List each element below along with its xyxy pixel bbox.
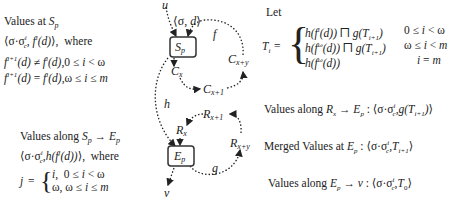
ti-label: Ti = xyxy=(262,40,281,58)
label-f: f xyxy=(213,27,218,41)
ti-case-2-cond: ω ≤ i < m xyxy=(404,39,447,52)
ti-case-1-cond: 0 ≤ i < ω xyxy=(404,24,445,37)
ti-definition: Ti = { h(fi(d)) ⨅ g(Ti+1) 0 ≤ i < ω h(fω… xyxy=(262,22,461,72)
label-cx: Cx xyxy=(171,64,183,79)
edge-rx1-rx xyxy=(187,114,203,125)
edge-cx1-cxy xyxy=(227,72,243,88)
label-cx1: Cx+1 xyxy=(203,82,224,97)
label-h: h xyxy=(164,97,170,111)
values-along-ep: Values along Ep → v : ⟨σ·σic,T0⟩ xyxy=(268,174,412,195)
label-rxy: Rx+y xyxy=(229,136,250,151)
ti-case-3-cond: i = m xyxy=(417,54,441,67)
label-rx: Rx xyxy=(175,123,187,138)
label-v: v xyxy=(164,186,170,200)
edge-ep-v xyxy=(168,168,174,185)
label-rx1: Rx+1 xyxy=(202,107,223,122)
edge-rxy-rx1 xyxy=(230,114,241,133)
label-init: ⟨σ, d⟩ xyxy=(173,14,201,28)
values-along-rx: Values along Rx → Ep : ⟨σ·σic,g(Ti+1)⟩ xyxy=(264,100,433,121)
let-label: Let xyxy=(266,6,281,19)
label-cxy: Cx+y xyxy=(228,52,249,67)
label-u: u xyxy=(162,0,168,12)
label-g: g xyxy=(212,161,218,175)
ti-case-3-expr: h(fω(d)) xyxy=(305,54,340,70)
merged-values: Merged Values at Ep : ⟨σ·σic,Ti+1⟩ xyxy=(264,137,413,158)
edge-cx-cx1 xyxy=(180,78,200,89)
